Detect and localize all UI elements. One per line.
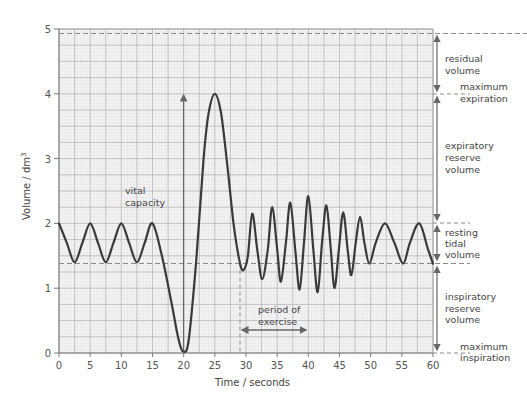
y-tick-label: 0 xyxy=(45,348,51,359)
x-tick-label: 25 xyxy=(208,360,221,371)
spirometer-chart: 051015202530354045505560 012345 vital ca… xyxy=(0,0,527,406)
vital-capacity-label-2: capacity xyxy=(125,197,165,208)
max-expiration-label-2: expiration xyxy=(460,93,508,104)
irv-label-3: volume xyxy=(445,314,480,325)
irv-label-1: inspiratory xyxy=(445,291,496,302)
x-tick-label: 30 xyxy=(240,360,253,371)
y-tick-label: 4 xyxy=(45,89,51,100)
max-inspiration-label-1: maximum xyxy=(460,341,508,352)
residual-volume-label-2: volume xyxy=(445,65,480,76)
tidal-label-2: tidal xyxy=(445,238,466,249)
y-tick-label: 1 xyxy=(45,283,51,294)
erv-label-1: expiratory xyxy=(445,140,494,151)
vital-capacity-label-1: vital xyxy=(125,185,145,196)
max-expiration-label-1: maximum xyxy=(460,81,508,92)
tidal-label-1: resting xyxy=(445,227,478,238)
x-ticks: 051015202530354045505560 xyxy=(56,353,440,371)
max-inspiration-label-2: inspiration xyxy=(460,352,510,363)
y-tick-label: 3 xyxy=(45,154,51,165)
y-axis-title-sup: 3 xyxy=(20,153,28,157)
erv-label-2: reserve xyxy=(445,152,481,163)
irv-label-2: reserve xyxy=(445,303,481,314)
x-tick-label: 60 xyxy=(427,360,440,371)
y-tick-label: 5 xyxy=(45,24,51,35)
x-tick-label: 20 xyxy=(177,360,190,371)
x-tick-label: 0 xyxy=(56,360,62,371)
y-ticks: 012345 xyxy=(45,24,59,359)
exercise-label-2: exercise xyxy=(258,316,297,327)
erv-label-3: volume xyxy=(445,164,480,175)
x-tick-label: 45 xyxy=(333,360,346,371)
x-axis-title: Time / seconds xyxy=(214,377,290,388)
x-tick-label: 5 xyxy=(87,360,93,371)
x-tick-label: 35 xyxy=(271,360,284,371)
y-axis-title: Volume / dm3 xyxy=(20,153,32,220)
tidal-label-3: volume xyxy=(445,249,480,260)
x-tick-label: 40 xyxy=(302,360,315,371)
y-tick-label: 2 xyxy=(45,218,51,229)
y-axis-title-text: Volume / dm xyxy=(21,157,32,220)
x-tick-label: 50 xyxy=(364,360,377,371)
exercise-label-1: period of xyxy=(258,304,301,315)
grid-major xyxy=(59,29,433,353)
residual-volume-label-1: residual xyxy=(445,53,483,64)
x-tick-label: 10 xyxy=(115,360,128,371)
x-tick-label: 15 xyxy=(146,360,159,371)
x-tick-label: 55 xyxy=(395,360,408,371)
